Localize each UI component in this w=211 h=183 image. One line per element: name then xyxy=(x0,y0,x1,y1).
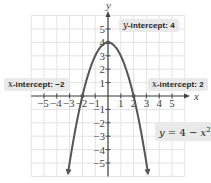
intercept-point xyxy=(132,94,136,98)
y-tick-label: 3 xyxy=(100,50,106,62)
x-axis-arrow-icon xyxy=(184,94,190,99)
y-tick-label: 1 xyxy=(100,77,106,89)
y-tick-label: −1 xyxy=(93,103,105,115)
x-tick-label: −5 xyxy=(37,97,49,109)
x-tick-label: −4 xyxy=(50,97,62,109)
intercept-point xyxy=(106,40,110,44)
y-tick-label: −2 xyxy=(93,117,105,129)
y-axis-arrow-icon xyxy=(106,11,111,17)
y-tick-label: −4 xyxy=(93,144,105,156)
x-tick-label: 3 xyxy=(144,97,150,109)
y-tick-label: 5 xyxy=(100,23,106,35)
curve-arrow-icon xyxy=(66,169,72,175)
curve-arrow-icon xyxy=(144,169,150,175)
y-tick-label: −5 xyxy=(93,157,105,169)
y-intercept-label: y-intercept: 4 xyxy=(119,19,179,32)
y-tick-label: 2 xyxy=(100,63,106,75)
coordinate-plane: −5−4−3−2−11234554321−1−2−3−4−5xy xyxy=(0,0,211,183)
x-intercept-pos-label: x-intercept: 2 xyxy=(148,78,208,91)
x-axis-name: x xyxy=(193,90,199,102)
axes xyxy=(31,11,190,176)
y-axis-name: y xyxy=(105,0,111,11)
x-tick-label: 5 xyxy=(169,97,175,109)
x-intercept-neg-label: x-intercept: −2 xyxy=(4,78,69,91)
intercept-point xyxy=(80,94,84,98)
x-tick-label: 1 xyxy=(118,97,124,109)
y-tick-label: −3 xyxy=(93,130,105,142)
x-tick-label: −3 xyxy=(63,97,75,109)
x-tick-label: 4 xyxy=(156,97,162,109)
equation-label: y = 4 − x2 xyxy=(155,122,211,141)
